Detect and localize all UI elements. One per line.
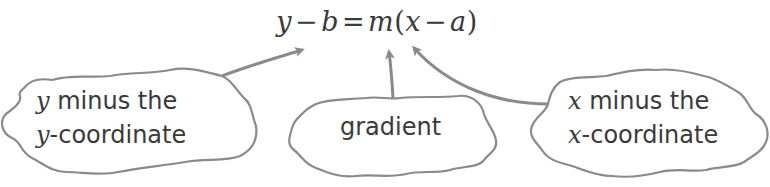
point-gradient-equation: y−b=m(x−a) bbox=[200, 6, 554, 37]
callout-middle-line1: gradient bbox=[340, 110, 441, 144]
eq-a: a bbox=[450, 6, 467, 37]
eq-x: x bbox=[405, 6, 421, 37]
equation-diagram: y−b=m(x−a) y minus the y-coordinate grad… bbox=[0, 0, 770, 187]
eq-m: m bbox=[368, 6, 394, 37]
callout-left-line2: y-coordinate bbox=[36, 118, 186, 152]
callout-right-line2: x-coordinate bbox=[568, 118, 718, 152]
arrow-middle bbox=[389, 52, 393, 98]
eq-b: b bbox=[321, 6, 339, 37]
eq-y: y bbox=[276, 6, 292, 37]
callout-right-line1: x minus the bbox=[568, 84, 718, 118]
arrow-right bbox=[414, 48, 548, 104]
eq-equals: = bbox=[339, 6, 368, 37]
eq-close-paren: ) bbox=[467, 6, 478, 37]
callout-middle: gradient bbox=[340, 110, 441, 144]
callout-left: y minus the y-coordinate bbox=[36, 84, 186, 152]
eq-open-paren: ( bbox=[394, 6, 405, 37]
arrow-left bbox=[222, 50, 302, 76]
eq-minus: − bbox=[421, 6, 450, 37]
eq-minus: − bbox=[292, 6, 321, 37]
callout-left-line1: y minus the bbox=[36, 84, 186, 118]
callout-right: x minus the x-coordinate bbox=[568, 84, 718, 152]
